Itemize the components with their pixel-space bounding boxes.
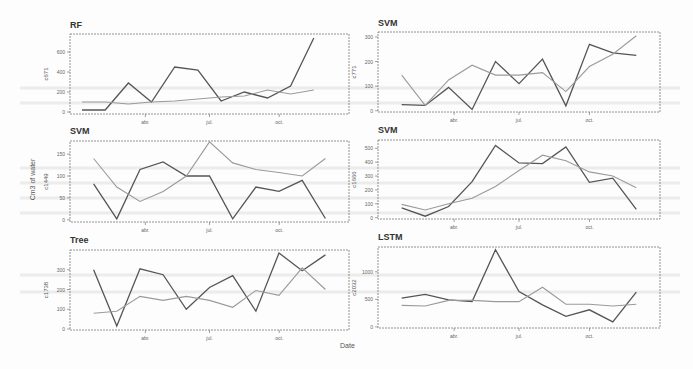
x-axis-label: Date [340, 342, 355, 349]
series-observed [402, 146, 637, 217]
panel-y-label: c1449 [43, 173, 49, 190]
panel-y-label: c2032 [351, 279, 357, 296]
x-tick-label: abr. [141, 227, 149, 233]
figure: 0200400600abr.jul.oct.c6710100200300abr.… [0, 0, 693, 369]
plot-frame [378, 140, 660, 219]
panel-svm-3: 0100200300400500abr.jul.oct.c1666 [351, 140, 660, 230]
y-tick-label: 150 [57, 151, 66, 157]
panel-title-tree: Tree [70, 235, 89, 245]
panel-y-label: c1666 [351, 171, 357, 188]
panel-y-label: c671 [43, 67, 49, 81]
series-observed [402, 44, 637, 109]
panel-y-label: c1738 [43, 281, 49, 298]
y-tick-label: 500 [365, 296, 374, 302]
y-tick-label: 0 [370, 108, 373, 114]
y-tick-label: 300 [365, 34, 374, 40]
y-tick-label: 400 [365, 159, 374, 165]
y-tick-label: 0 [62, 217, 65, 223]
x-tick-label: jul. [515, 333, 522, 339]
panel-title-svm-3: SVM [378, 125, 398, 135]
x-tick-label: jul. [205, 227, 212, 233]
series-predicted [94, 268, 326, 313]
x-tick-label: jul. [515, 224, 522, 230]
y-tick-label: 50 [59, 195, 65, 201]
x-tick-label: oct. [275, 119, 283, 125]
y-tick-label: 1000 [362, 269, 373, 275]
y-tick-label: 0 [370, 324, 373, 330]
x-tick-label: abr. [450, 333, 458, 339]
y-tick-label: 400 [57, 69, 66, 75]
panel-title-svm-1: SVM [378, 18, 398, 28]
x-tick-label: jul. [205, 119, 212, 125]
series-observed [402, 250, 637, 322]
panel-rf: 0200400600abr.jul.oct.c671 [43, 34, 349, 125]
y-tick-label: 600 [57, 49, 66, 55]
panel-title-lstm: LSTM [378, 232, 403, 242]
y-axis-label: Cm3 of water [29, 159, 36, 201]
x-tick-label: oct. [585, 333, 593, 339]
y-tick-label: 0 [62, 109, 65, 115]
x-tick-label: abr. [141, 335, 149, 341]
y-tick-label: 200 [57, 287, 66, 293]
y-tick-label: 200 [365, 187, 374, 193]
x-tick-label: abr. [141, 119, 149, 125]
x-tick-label: abr. [450, 117, 458, 123]
y-tick-label: 100 [57, 306, 66, 312]
x-tick-label: jul. [205, 335, 212, 341]
series-predicted [94, 142, 326, 202]
y-tick-label: 300 [57, 267, 66, 273]
x-tick-label: oct. [585, 224, 593, 230]
plot-area: 0200400600abr.jul.oct.c6710100200300abr.… [0, 0, 693, 369]
panel-svm-2: 050100150abr.jul.oct.c1449 [43, 141, 349, 233]
panel-lstm: 05001000abr.jul.oct.c2032 [351, 247, 660, 339]
y-tick-label: 100 [365, 201, 374, 207]
plot-frame [70, 250, 349, 330]
x-tick-label: oct. [275, 227, 283, 233]
series-observed [94, 253, 326, 326]
y-tick-label: 100 [57, 173, 66, 179]
y-tick-label: 500 [365, 145, 374, 151]
panel-tree: 0100200300abr.jul.oct.c1738 [43, 250, 349, 341]
x-tick-label: oct. [585, 117, 593, 123]
y-tick-label: 100 [365, 83, 374, 89]
y-tick-label: 200 [365, 59, 374, 65]
y-tick-label: 200 [57, 89, 66, 95]
series-predicted [402, 36, 637, 106]
series-observed [94, 162, 326, 219]
panel-y-label: c771 [351, 65, 357, 79]
panel-title-rf: RF [70, 20, 82, 30]
x-tick-label: oct. [275, 335, 283, 341]
y-tick-label: 300 [365, 173, 374, 179]
y-tick-label: 0 [62, 326, 65, 332]
y-tick-label: 0 [370, 215, 373, 221]
panel-svm-1: 0100200300abr.jul.oct.c771 [351, 32, 660, 123]
x-tick-label: jul. [515, 117, 522, 123]
plot-frame [378, 32, 660, 112]
panel-title-svm-2: SVM [70, 126, 90, 136]
x-tick-label: abr. [450, 224, 458, 230]
